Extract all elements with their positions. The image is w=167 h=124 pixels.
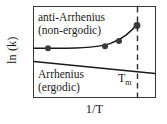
anti-arrhenius-label-line1: anti-Arrhenius: [38, 11, 105, 24]
arrhenius-label-line2: (ergodic): [38, 81, 84, 94]
y-axis-label: ln (k): [6, 22, 19, 78]
tm-label: Tm: [118, 72, 132, 87]
anti-arrhenius-annotation: anti-Arrhenius (non-ergodic): [38, 11, 105, 36]
arrhenius-annotation: Arrhenius (ergodic): [38, 68, 84, 93]
arrhenius-label-line1: Arrhenius: [38, 68, 84, 81]
tm-subscript: m: [125, 78, 131, 87]
x-axis-label: 1/T: [33, 103, 156, 116]
anti-arrhenius-label-line2: (non-ergodic): [38, 24, 105, 37]
arrhenius-plot-figure: ln (k) anti-Arrhenius (non-ergodic) Arrh…: [0, 0, 167, 124]
